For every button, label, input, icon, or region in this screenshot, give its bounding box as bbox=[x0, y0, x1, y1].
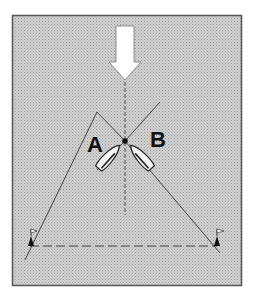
diagram-canvas bbox=[0, 0, 255, 303]
boat-b-label: B bbox=[150, 129, 166, 151]
boat-a-label: A bbox=[87, 134, 103, 156]
crossing-point-dot bbox=[122, 138, 128, 144]
